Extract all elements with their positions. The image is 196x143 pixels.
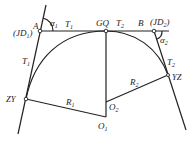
label-jd1: (JD1) (13, 28, 33, 39)
label-o2: O2 (109, 102, 119, 113)
label-a: A (32, 21, 39, 31)
label-jd2: (JD2) (150, 17, 170, 28)
label-t1-left: T1 (22, 56, 30, 67)
point-yz (167, 74, 170, 77)
label-r1: R1 (65, 97, 75, 108)
label-yz: YZ (172, 72, 182, 82)
label-t2-right: T2 (167, 57, 175, 68)
label-t2-top: T2 (116, 18, 124, 29)
label-b: B (138, 18, 144, 28)
label-o1: O1 (98, 121, 108, 132)
point-zy (24, 97, 28, 101)
label-r2: R2 (129, 77, 139, 88)
label-t1-top: T1 (65, 19, 73, 30)
compound-curve-diagram: A (JD1) α1 T1 T1 GQ T2 B (JD2) α2 T2 ZY … (0, 0, 196, 143)
point-gq (104, 29, 108, 33)
point-b (152, 29, 156, 33)
label-gq: GQ (96, 18, 109, 28)
radius-r2 (106, 75, 168, 102)
point-a (38, 29, 42, 33)
label-alpha2: α2 (160, 35, 168, 46)
left-tangent-line (18, 5, 46, 134)
label-zy: ZY (6, 94, 17, 104)
label-alpha1: α1 (50, 18, 58, 29)
